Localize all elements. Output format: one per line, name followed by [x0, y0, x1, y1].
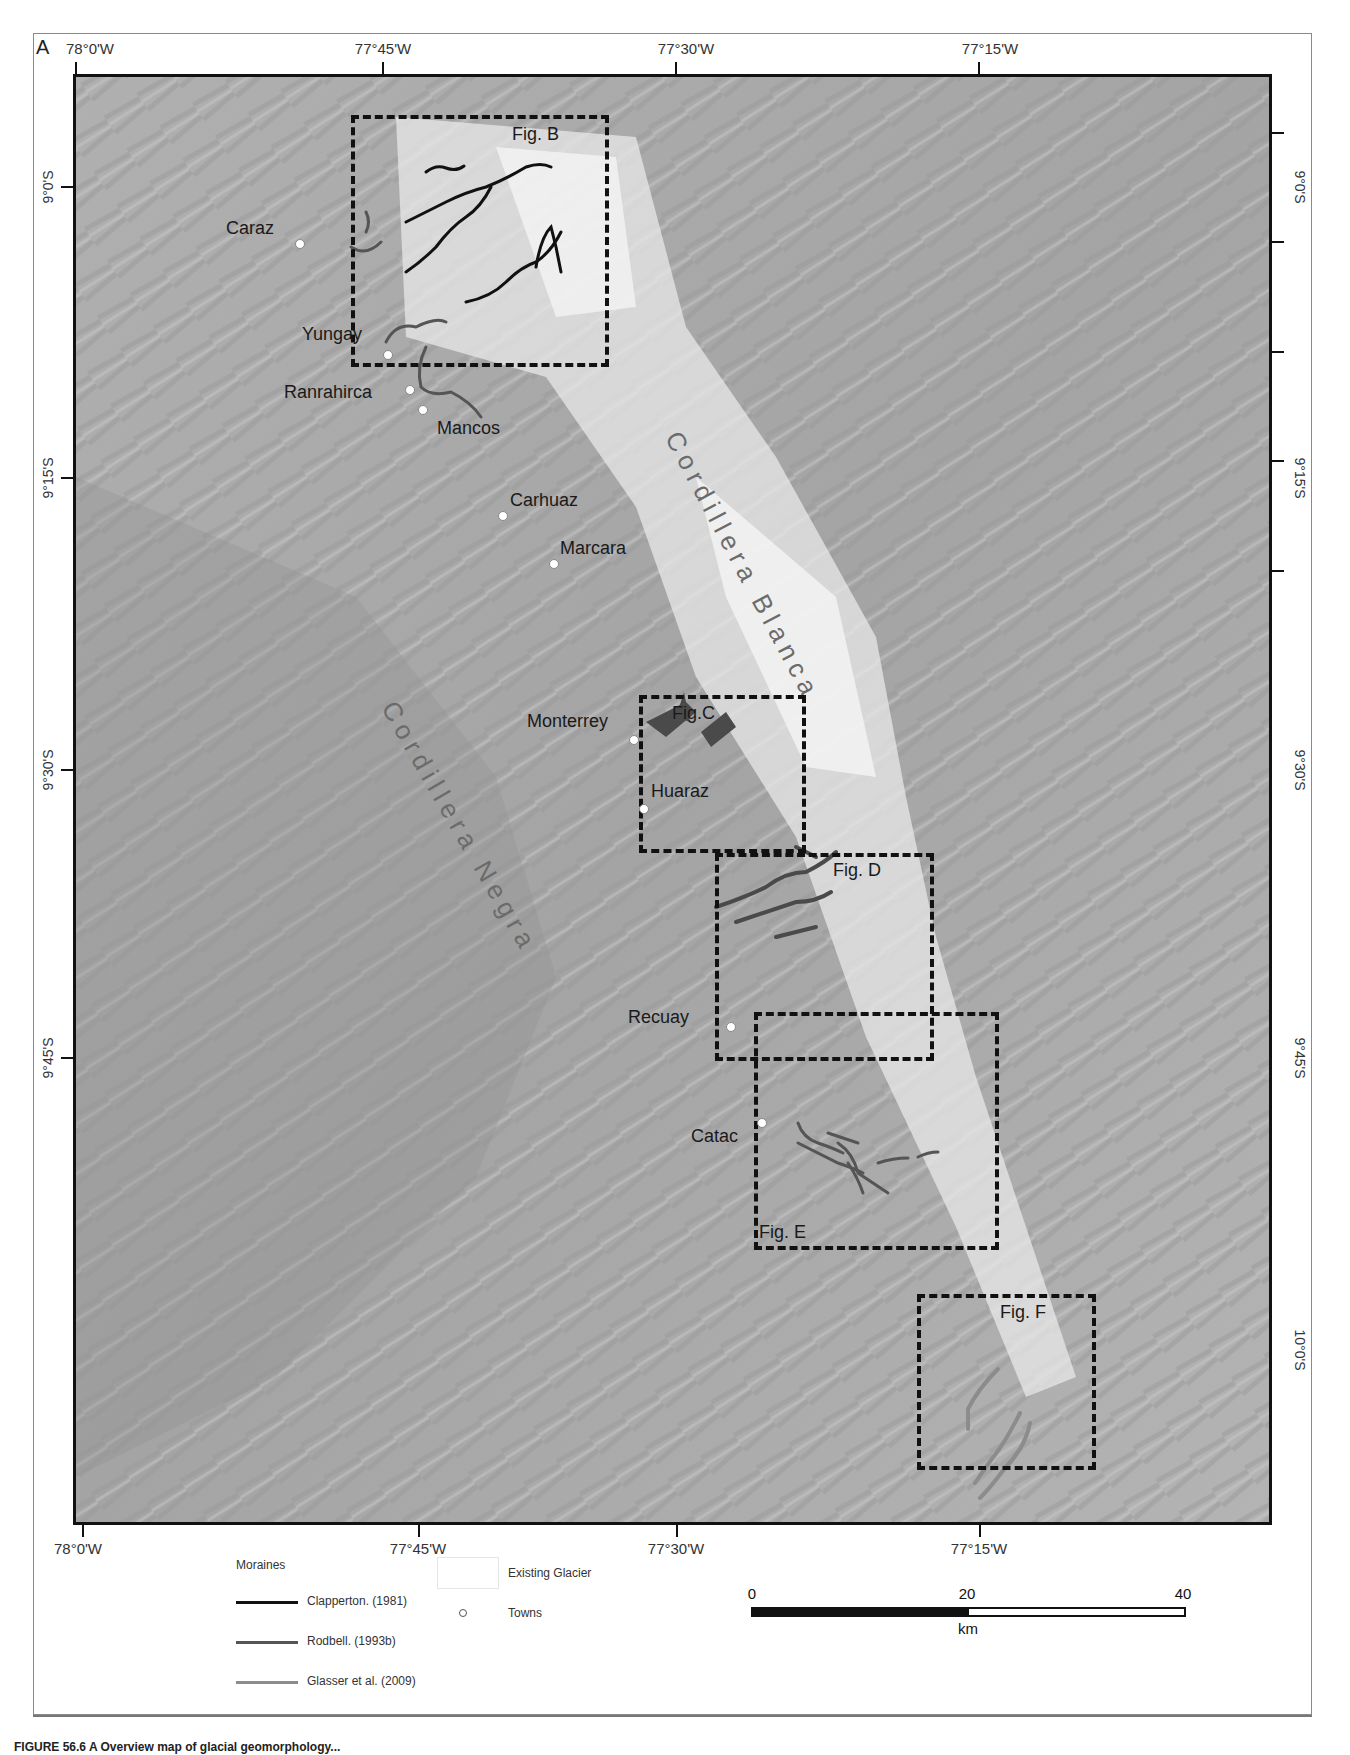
lon-label: 77°15'W: [951, 1540, 1007, 1557]
lat-label: 9°15'S: [1292, 458, 1308, 499]
town-marker[interactable]: [639, 804, 649, 814]
inset-label-fig-e: Fig. E: [759, 1222, 806, 1243]
town-marker[interactable]: [549, 559, 559, 569]
legend-title-moraines: Moraines: [236, 1558, 285, 1572]
lon-tick: [979, 1525, 981, 1537]
lon-label: 77°30'W: [658, 40, 714, 57]
legend-label-existing-glacier: Existing Glacier: [508, 1566, 591, 1580]
lat-tick: [1272, 460, 1284, 462]
lat-tick: [1272, 132, 1284, 134]
town-label: Recuay: [628, 1007, 689, 1028]
town-marker[interactable]: [757, 1118, 767, 1128]
inset-label-fig-b: Fig. B: [512, 124, 559, 145]
scale-tick-label: 0: [748, 1585, 756, 1602]
existing-glacier-swatch: [437, 1557, 499, 1589]
town-marker[interactable]: [405, 385, 415, 395]
inset-box-fig-e[interactable]: [754, 1012, 999, 1250]
inset-label-fig-f: Fig. F: [1000, 1302, 1046, 1323]
scale-tick-label: 40: [1175, 1585, 1192, 1602]
lat-tick: [1272, 570, 1284, 572]
lat-tick: [61, 1057, 73, 1059]
town-label: Marcara: [560, 538, 626, 559]
lat-tick: [61, 769, 73, 771]
legend-line-clapperton: [236, 1601, 298, 1604]
lon-label: 77°45'W: [390, 1540, 446, 1557]
lon-tick: [418, 1525, 420, 1537]
town-label: Catac: [691, 1126, 738, 1147]
lat-label: 9°15'S: [40, 458, 56, 499]
lat-label: 9°30'S: [1292, 750, 1308, 791]
panel-letter: A: [36, 36, 49, 59]
lon-label: 77°15'W: [962, 40, 1018, 57]
town-marker[interactable]: [383, 350, 393, 360]
lon-tick: [675, 62, 677, 74]
lon-label: 78°0'W: [66, 40, 114, 57]
lon-label: 77°30'W: [648, 1540, 704, 1557]
town-label: Huaraz: [651, 781, 709, 802]
lat-label: 9°30'S: [40, 750, 56, 791]
lon-tick: [75, 62, 77, 74]
legend-label-towns: Towns: [508, 1606, 542, 1620]
town-label: Ranrahirca: [284, 382, 372, 403]
lat-label: 9°45'S: [1292, 1038, 1308, 1079]
lon-tick: [676, 1525, 678, 1537]
town-marker[interactable]: [629, 735, 639, 745]
lat-label: 9°0'S: [40, 170, 56, 203]
town-marker[interactable]: [418, 405, 428, 415]
scale-bar-empty: [967, 1607, 1186, 1617]
scale-bar-filled: [751, 1607, 969, 1617]
town-label: Caraz: [226, 218, 274, 239]
lon-label: 78°0'W: [54, 1540, 102, 1557]
legend-label-rodbell: Rodbell. (1993b): [307, 1634, 396, 1648]
town-label: Monterrey: [527, 711, 608, 732]
lat-tick: [1272, 241, 1284, 243]
lat-tick: [1272, 351, 1284, 353]
lon-tick: [978, 62, 980, 74]
legend-label-glasser: Glasser et al. (2009): [307, 1674, 416, 1688]
town-label: Yungay: [302, 324, 362, 345]
town-marker[interactable]: [726, 1022, 736, 1032]
lat-tick: [61, 477, 73, 479]
legend-line-glasser: [236, 1681, 298, 1684]
inset-label-fig-c: Fig.C: [672, 703, 715, 724]
lat-tick: [61, 186, 73, 188]
lon-label: 77°45'W: [355, 40, 411, 57]
lat-label: 9°0'S: [1292, 170, 1308, 203]
inset-label-fig-d: Fig. D: [833, 860, 881, 881]
town-marker[interactable]: [498, 511, 508, 521]
lon-tick: [82, 1525, 84, 1537]
lon-tick: [382, 62, 384, 74]
inset-box-fig-c[interactable]: [639, 695, 806, 853]
scale-unit: km: [958, 1620, 978, 1637]
inset-box-fig-b[interactable]: [351, 115, 609, 367]
town-marker[interactable]: [295, 239, 305, 249]
town-label: Carhuaz: [510, 490, 578, 511]
scale-tick-label: 20: [959, 1585, 976, 1602]
town-label: Mancos: [437, 418, 500, 439]
lat-label: 9°45'S: [40, 1038, 56, 1079]
figure-caption: FIGURE 56.6 A Overview map of glacial ge…: [14, 1740, 340, 1754]
town-symbol-icon: [459, 1609, 467, 1617]
legend-line-rodbell: [236, 1641, 298, 1644]
lat-label: 10°0'S: [1292, 1330, 1308, 1371]
legend-label-clapperton: Clapperton. (1981): [307, 1594, 407, 1608]
